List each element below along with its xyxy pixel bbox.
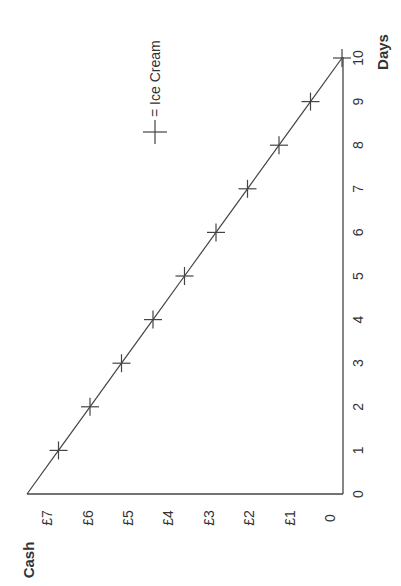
cash-tick-label: £3: [201, 510, 217, 526]
ice-cream-series: [27, 49, 351, 494]
cash-tick-label: £1: [282, 510, 298, 526]
days-tick-label: 2: [350, 403, 366, 411]
days-axis-title: Days: [374, 34, 391, 70]
plus-marker-icon: [302, 93, 320, 111]
cash-axis-title: Cash: [20, 542, 37, 579]
cash-tick-label: £2: [241, 510, 257, 526]
days-tick-label: 0: [350, 490, 366, 498]
chart: 012345678910 0£1£2£3£4£5£6£7 = Ice Cream…: [0, 0, 401, 586]
plus-marker-icon: [143, 120, 167, 144]
plus-marker-icon: [50, 441, 68, 459]
days-tick-label: 10: [350, 50, 366, 66]
cash-tick-labels: 0£1£2£3£4£5£6£7: [39, 510, 338, 526]
cash-tick-label: £4: [160, 510, 176, 526]
legend-label: = Ice Cream: [147, 40, 163, 117]
days-tick-label: 6: [350, 228, 366, 236]
cash-tick-label: £5: [120, 510, 136, 526]
plus-marker-icon: [239, 180, 257, 198]
plus-marker-icon: [176, 267, 194, 285]
plus-marker-icon: [81, 398, 99, 416]
days-tick-label: 1: [350, 446, 366, 454]
days-tick-label: 9: [350, 97, 366, 105]
cash-tick-label: £7: [39, 510, 55, 526]
days-tick-labels: 012345678910: [350, 50, 366, 498]
cash-tick-label: £6: [80, 510, 96, 526]
days-tick-label: 8: [350, 141, 366, 149]
legend: = Ice Cream: [143, 40, 167, 144]
plus-marker-icon: [207, 223, 225, 241]
plus-marker-icon: [333, 49, 351, 67]
days-tick-label: 7: [350, 185, 366, 193]
plus-marker-icon: [270, 136, 288, 154]
cash-tick-label: 0: [322, 514, 338, 522]
days-tick-label: 5: [350, 272, 366, 280]
days-tick-label: 4: [350, 315, 366, 323]
days-tick-label: 3: [350, 359, 366, 367]
plus-marker-icon: [144, 311, 162, 329]
plus-marker-icon: [113, 354, 131, 372]
